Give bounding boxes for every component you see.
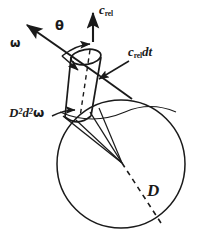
cylinder-wall-right bbox=[91, 57, 101, 116]
solid-angle-d-exp: 2 bbox=[29, 107, 33, 116]
sphere-outline bbox=[57, 100, 185, 228]
c-rel-dt-leader-line bbox=[99, 61, 129, 79]
solid-angle-omega: ω bbox=[33, 105, 44, 120]
solid-angle-D: D bbox=[9, 105, 18, 120]
collision-cylinder-figure: crel creldt ω θ D2d2ω D bbox=[0, 0, 200, 239]
swept-base: c bbox=[128, 44, 134, 59]
omega-symbol: ω bbox=[10, 36, 20, 50]
theta-symbol: θ bbox=[55, 18, 64, 33]
cylinder-top-cap bbox=[70, 47, 102, 67]
solid-angle-D-exp: 2 bbox=[18, 107, 22, 116]
c-rel-base: c bbox=[99, 2, 105, 17]
cone-edge-left bbox=[63, 116, 122, 163]
diameter-symbol: D bbox=[147, 181, 159, 200]
label-omega-direction: ω bbox=[10, 37, 20, 49]
c-rel-subscript: rel bbox=[105, 9, 113, 18]
cylinder-axis-dashed bbox=[80, 50, 90, 117]
label-relative-velocity: crel bbox=[99, 3, 113, 16]
cylinder-wall-left bbox=[65, 57, 71, 117]
omega-axis-line bbox=[100, 76, 132, 99]
label-swept-length: creldt bbox=[128, 45, 152, 58]
solid-angle-d: d bbox=[22, 105, 29, 120]
swept-subscript: rel bbox=[134, 51, 142, 60]
swept-trailing: dt bbox=[142, 44, 152, 59]
diagram-canvas bbox=[0, 0, 200, 239]
label-theta-angle: θ bbox=[55, 19, 64, 32]
label-solid-angle-element: D2d2ω bbox=[9, 106, 44, 119]
label-sphere-diameter: D bbox=[147, 182, 159, 199]
